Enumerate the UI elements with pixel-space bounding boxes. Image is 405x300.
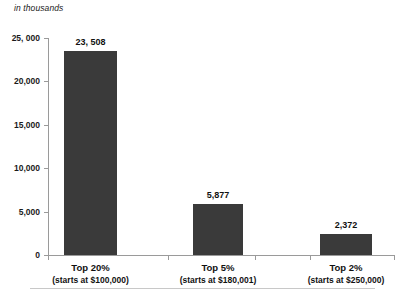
category-name: Top 5% <box>158 262 278 273</box>
y-axis-tick-mark <box>44 81 48 82</box>
y-axis-tick-label: 20,000 <box>0 76 40 86</box>
category-label: Top 2%(starts at $250,000) <box>286 262 405 285</box>
x-axis-tick-mark <box>394 256 395 260</box>
x-axis-tick-mark <box>48 256 49 260</box>
x-axis-tick-mark <box>310 256 311 260</box>
x-axis-line <box>48 255 395 256</box>
category-label: Top 5%(starts at $180,001) <box>158 262 278 285</box>
y-axis-tick-mark <box>44 125 48 126</box>
axis-unit-label: in thousands <box>14 3 63 13</box>
bar-value-label: 2,372 <box>295 220 397 230</box>
category-name: Top 20% <box>31 262 151 273</box>
bar <box>193 204 243 255</box>
y-axis-line <box>48 38 49 255</box>
bar-value-label: 23, 508 <box>39 37 142 47</box>
category-sublabel: (starts at $250,000) <box>286 275 405 285</box>
y-axis-tick-label: 15,000 <box>0 120 40 130</box>
bar-chart: in thousands 05,00010,00015,00020,00025,… <box>0 0 405 300</box>
y-axis-tick-label: 25, 000 <box>0 33 40 43</box>
y-axis-tick-label: 0 <box>0 250 40 260</box>
y-axis-tick-mark <box>44 212 48 213</box>
category-sublabel: (starts at $180,001) <box>158 275 278 285</box>
bar-value-label: 5,877 <box>168 190 268 200</box>
y-axis-tick-label: 10,000 <box>0 163 40 173</box>
y-axis-tick-mark <box>44 168 48 169</box>
y-axis-tick-label: 5,000 <box>0 207 40 217</box>
x-axis-tick-mark <box>168 256 169 260</box>
category-label: Top 20%(starts at $100,000) <box>31 262 151 285</box>
x-axis-tick-mark <box>255 256 256 260</box>
footnote-divider <box>30 288 375 289</box>
bar <box>64 51 117 255</box>
category-sublabel: (starts at $100,000) <box>31 275 151 285</box>
category-name: Top 2% <box>286 262 405 273</box>
bar <box>320 234 372 255</box>
